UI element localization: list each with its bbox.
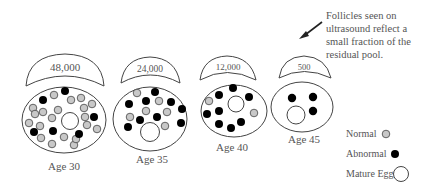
annotation-arrow bbox=[305, 22, 322, 35]
legend-normal-label: Normal bbox=[346, 128, 377, 139]
svg-text:residual pool.: residual pool. bbox=[326, 49, 383, 60]
age-label: Age 35 bbox=[136, 153, 169, 165]
annotation: Follicles seen on ultrasound reflect a s… bbox=[299, 10, 411, 60]
svg-text:Follicles seen on: Follicles seen on bbox=[326, 10, 397, 21]
annotation-line: small fraction of the bbox=[326, 36, 411, 47]
group-age-40: 12,000 Age 40 bbox=[200, 56, 267, 153]
ovary-outline bbox=[271, 82, 333, 132]
pool-count: 24,000 bbox=[137, 64, 163, 74]
legend-mature-label: Mature Egg bbox=[346, 168, 394, 179]
pool-count: 500 bbox=[298, 62, 311, 72]
annotation-line: Follicles seen on bbox=[326, 10, 397, 21]
svg-text:ultrasound reflect a: ultrasound reflect a bbox=[326, 23, 407, 34]
svg-text:small fraction of the: small fraction of the bbox=[326, 36, 411, 47]
ovarian-reserve-diagram: Follicles seen on ultrasound reflect a s… bbox=[0, 0, 430, 196]
group-age-30: 48,000 Age 30 bbox=[22, 54, 106, 172]
normal-follicle-icon bbox=[382, 130, 390, 138]
pool-count: 48,000 bbox=[50, 61, 81, 73]
pool-count: 12,000 bbox=[216, 62, 241, 72]
annotation-line: residual pool. bbox=[326, 49, 383, 60]
mature-egg bbox=[287, 106, 305, 124]
group-age-45: 500 Age 45 bbox=[271, 56, 333, 145]
mature-egg bbox=[141, 123, 160, 142]
age-label: Age 45 bbox=[288, 133, 321, 145]
group-age-35: 24,000 Age 35 bbox=[113, 57, 187, 165]
mature-egg bbox=[62, 113, 79, 130]
legend: Normal Abnormal Mature Egg bbox=[346, 128, 409, 182]
mature-egg-icon bbox=[394, 167, 409, 182]
mature-egg bbox=[228, 96, 244, 112]
annotation-line: ultrasound reflect a bbox=[326, 23, 407, 34]
age-label: Age 40 bbox=[216, 141, 249, 153]
age-label: Age 30 bbox=[48, 160, 81, 172]
abnormal-follicle-icon bbox=[391, 150, 399, 158]
legend-abnormal-label: Abnormal bbox=[346, 148, 387, 159]
